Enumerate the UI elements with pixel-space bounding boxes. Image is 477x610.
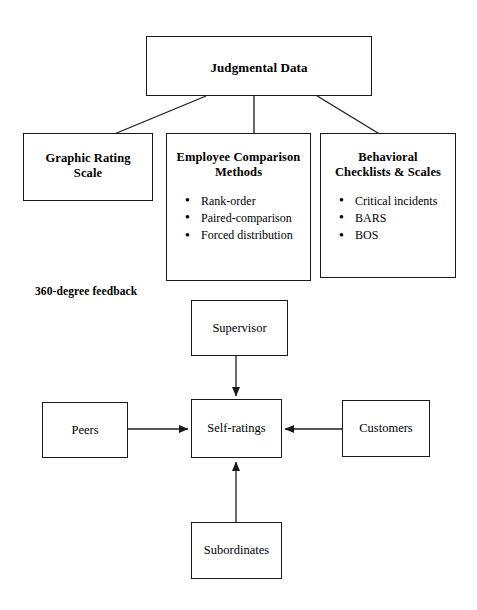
subordinates-box: Subordinates: [191, 522, 282, 579]
employee-comparison-methods-box: Employee Comparison Methods Rank-order P…: [166, 133, 311, 281]
diagram-canvas: Judgmental Data Graphic Rating Scale Emp…: [0, 0, 477, 610]
judgmental-data-box: Judgmental Data: [146, 36, 372, 96]
list-item: BARS: [339, 210, 455, 227]
graphic-rating-scale-title: Graphic Rating Scale: [24, 151, 152, 182]
subordinates-label: Subordinates: [204, 543, 269, 558]
employee-comparison-methods-title-line2: Methods: [215, 165, 262, 179]
supervisor-box: Supervisor: [191, 300, 288, 356]
graphic-rating-scale-box: Graphic Rating Scale: [23, 133, 153, 201]
behavioral-checklists-scales-title: Behavioral Checklists & Scales: [321, 150, 455, 181]
employee-comparison-methods-list: Rank-order Paired-comparison Forced dist…: [167, 193, 310, 245]
behavioral-checklists-scales-box: Behavioral Checklists & Scales Critical …: [320, 133, 456, 278]
self-ratings-box: Self-ratings: [191, 399, 282, 458]
customers-box: Customers: [342, 400, 430, 457]
employee-comparison-methods-title-line1: Employee Comparison: [177, 150, 301, 164]
peers-label: Peers: [71, 423, 98, 438]
customers-label: Customers: [359, 421, 412, 436]
supervisor-label: Supervisor: [212, 321, 266, 336]
list-item: BOS: [339, 227, 455, 244]
list-item: Rank-order: [185, 193, 310, 210]
peers-box: Peers: [42, 402, 128, 458]
list-item: Critical incidents: [339, 193, 455, 210]
behavioral-checklists-scales-list: Critical incidents BARS BOS: [321, 193, 455, 245]
list-item: Forced distribution: [185, 227, 310, 244]
list-item: Paired-comparison: [185, 210, 310, 227]
behavioral-checklists-scales-title-line1: Behavioral: [358, 150, 417, 164]
graphic-rating-scale-title-line2: Scale: [74, 166, 102, 180]
employee-comparison-methods-title: Employee Comparison Methods: [167, 150, 310, 181]
self-ratings-label: Self-ratings: [207, 421, 265, 436]
behavioral-checklists-scales-title-line2: Checklists & Scales: [335, 165, 441, 179]
graphic-rating-scale-title-line1: Graphic Rating: [45, 151, 130, 165]
feedback-section-label: 360-degree feedback: [35, 285, 137, 297]
judgmental-data-title: Judgmental Data: [147, 60, 371, 76]
